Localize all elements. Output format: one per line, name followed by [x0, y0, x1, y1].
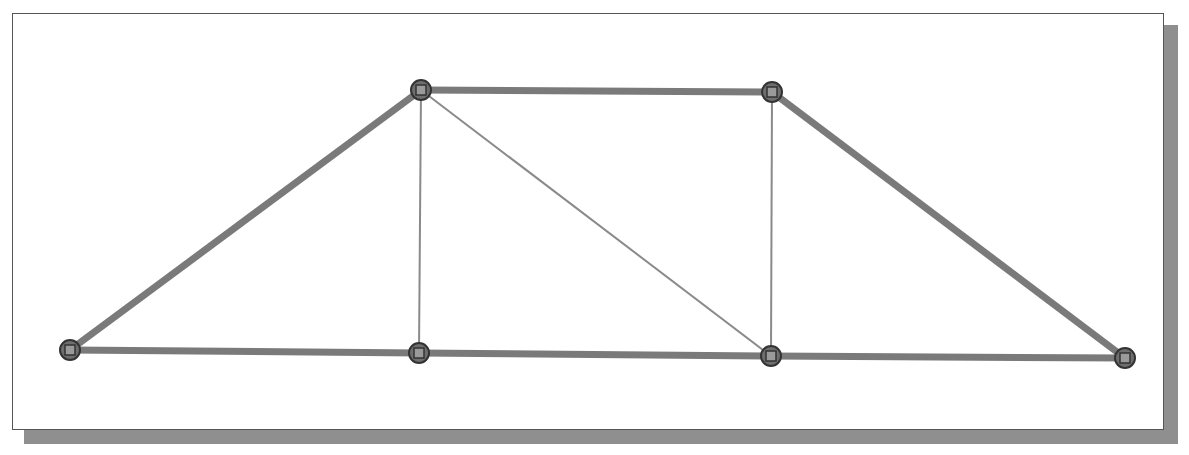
node-joint-icon — [1115, 348, 1135, 368]
truss-member-chord — [421, 90, 772, 92]
truss-member-web — [419, 90, 421, 353]
node-joint-icon — [60, 340, 80, 360]
truss-member-chord — [771, 356, 1125, 358]
node-joint-icon — [409, 343, 429, 363]
truss-member-chord — [70, 350, 419, 353]
truss-diagram — [0, 0, 1189, 455]
node-joint-icon — [762, 82, 782, 102]
truss-member-chord — [419, 353, 771, 356]
node-joint-icon — [411, 80, 431, 100]
node-joint-icon — [761, 346, 781, 366]
truss-members — [70, 90, 1125, 358]
truss-member-chord — [70, 90, 421, 350]
truss-member-web — [421, 90, 771, 356]
truss-member-web — [771, 92, 772, 356]
truss-member-chord — [772, 92, 1125, 358]
